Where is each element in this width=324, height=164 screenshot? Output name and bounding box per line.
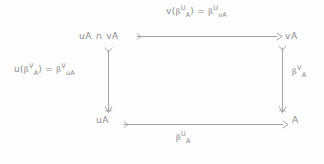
node-top-right: vA	[285, 31, 298, 41]
right-label-sub: A	[302, 71, 307, 79]
top-label-equals: =	[194, 6, 208, 16]
left-label-sub2: uA	[66, 69, 75, 77]
bottom-arrow-label: βUA	[176, 132, 191, 142]
right-arrow	[279, 46, 286, 113]
top-label-sub2: vA	[218, 11, 227, 19]
node-bottom-right: A	[292, 115, 299, 125]
node-bottom-left: uA	[96, 115, 109, 125]
left-arrow	[105, 48, 112, 113]
bottom-label-sub: A	[186, 137, 191, 145]
left-label-fn: u(	[14, 64, 24, 74]
left-label-equals: =	[42, 64, 56, 74]
right-arrow-label: βVA	[292, 66, 306, 76]
left-arrow-label: u(βVA)=βVuA	[14, 64, 75, 74]
diagram-arrows	[0, 0, 324, 164]
top-arrow	[137, 33, 282, 40]
top-arrow-label: v(βUA)=βUvA	[166, 6, 227, 16]
top-label-fn: v(	[166, 6, 176, 16]
diagram-canvas: uA ∩ vA vA uA A v(βUA)=βUvA u(βVA)=βVuA …	[0, 0, 324, 164]
bottom-arrow	[124, 121, 288, 128]
node-top-left: uA ∩ vA	[79, 31, 119, 41]
